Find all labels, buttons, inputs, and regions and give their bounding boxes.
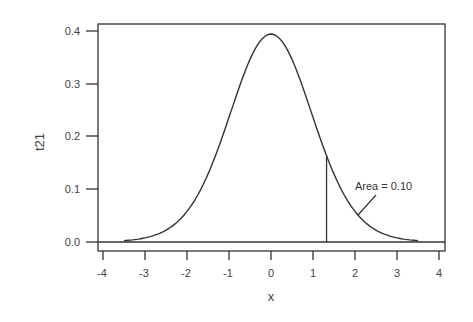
y-axis xyxy=(86,31,98,242)
chart-canvas: 0.0 0.1 0.2 0.3 0.4 -4 -3 -2 -1 0 1 2 3 … xyxy=(0,0,473,322)
x-tick-7: 3 xyxy=(394,267,400,279)
x-tick-3: -1 xyxy=(223,267,233,279)
y-tick-2: 0.2 xyxy=(65,130,80,142)
x-tick-6: 2 xyxy=(352,267,358,279)
x-tick-0: -4 xyxy=(97,267,107,279)
density-curve xyxy=(124,34,418,241)
x-axis xyxy=(103,251,439,260)
x-axis-title: x xyxy=(268,289,275,304)
area-annotation: Area = 0.10 xyxy=(355,180,412,192)
y-tick-labels: 0.0 0.1 0.2 0.3 0.4 xyxy=(65,25,80,248)
x-tick-8: 4 xyxy=(436,267,442,279)
x-tick-5: 1 xyxy=(310,267,316,279)
y-tick-3: 0.3 xyxy=(65,78,80,90)
y-axis-title: t21 xyxy=(32,133,47,151)
y-tick-0: 0.0 xyxy=(65,236,80,248)
x-tick-1: -3 xyxy=(139,267,149,279)
y-tick-4: 0.4 xyxy=(65,25,80,37)
plot-frame xyxy=(98,24,445,251)
x-tick-2: -2 xyxy=(181,267,191,279)
y-tick-1: 0.1 xyxy=(65,183,80,195)
x-tick-labels: -4 -3 -2 -1 0 1 2 3 4 xyxy=(97,267,442,279)
annotation-pointer xyxy=(358,195,376,215)
x-tick-4: 0 xyxy=(268,267,274,279)
